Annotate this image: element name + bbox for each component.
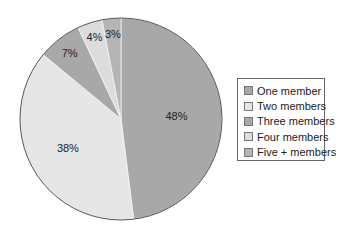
legend: One member Two members Three members Fou…: [237, 78, 325, 161]
slice-percent-label: 4%: [87, 31, 103, 43]
legend-label: Three members: [257, 115, 335, 127]
legend-swatch: [244, 148, 253, 157]
legend-swatch: [244, 132, 253, 141]
legend-swatch: [244, 117, 253, 126]
slice-percent-label: 3%: [105, 28, 121, 40]
legend-label: Five + members: [257, 146, 336, 158]
legend-label: Four members: [257, 131, 329, 143]
slice-percent-label: 7%: [62, 47, 78, 59]
legend-item-five-plus-members: Five + members: [244, 145, 324, 160]
slice-percent-label: 38%: [57, 142, 79, 154]
legend-item-one-member: One member: [244, 83, 324, 98]
legend-item-two-members: Two members: [244, 98, 324, 113]
legend-item-four-members: Four members: [244, 129, 324, 144]
legend-label: Two members: [257, 100, 326, 112]
legend-item-three-members: Three members: [244, 114, 324, 129]
legend-label: One member: [257, 85, 321, 97]
legend-swatch: [244, 102, 253, 111]
pie-chart: 48%38%7%4%3%: [0, 0, 240, 234]
legend-swatch: [244, 86, 253, 95]
slice-percent-label: 48%: [165, 110, 187, 122]
